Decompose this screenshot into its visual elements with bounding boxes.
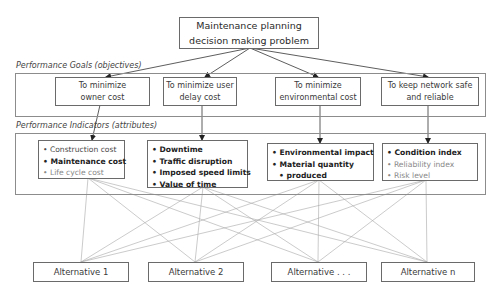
goal-network-safe-reliable: To keep network safe and reliable (381, 77, 479, 106)
decision-problem-line1: Maintenance planning (196, 18, 301, 33)
indicator-item: Environmental impact (272, 147, 369, 159)
alternative-ellipsis: Alternative . . . (271, 262, 367, 282)
goal-environmental-cost: To minimize environmental cost (275, 77, 361, 106)
indicator-item: Maintenance cost (43, 156, 120, 168)
alternative-1-label: Alternative 1 (54, 266, 109, 278)
indicator-item: Reliability index (387, 159, 473, 171)
indicators-environmental: Environmental impact Material quantity p… (267, 143, 374, 181)
goal-environmental-line2: environmental cost (279, 92, 356, 104)
indicators-owner-cost: Construction cost Maintenance cost Life … (38, 140, 125, 179)
indicator-item: Downtime (152, 144, 243, 156)
goal-network-line1: To keep network safe (388, 80, 473, 92)
goal-user-delay-line2: delay cost (180, 92, 221, 104)
goal-owner-cost: To minimize owner cost (55, 77, 150, 106)
goal-user-delay-cost: To minimize user delay cost (163, 77, 237, 106)
indicator-item: Traffic disruption (152, 156, 243, 168)
decision-problem-box: Maintenance planning decision making pro… (179, 17, 319, 49)
alternative-ellipsis-label: Alternative . . . (288, 266, 351, 278)
goal-owner-cost-line1: To minimize (79, 80, 126, 92)
goal-environmental-line1: To minimize (294, 80, 341, 92)
indicator-item: Risk level (387, 170, 473, 182)
indicators-network: Condition index Reliability index Risk l… (382, 143, 478, 181)
performance-goals-label: Performance Goals (objectives) (16, 61, 142, 70)
alternative-1: Alternative 1 (33, 262, 129, 282)
indicator-item: Value of time (152, 179, 243, 191)
goal-network-line2: and reliable (406, 92, 453, 104)
goal-owner-cost-line2: owner cost (81, 92, 125, 104)
indicator-item: Condition index (387, 147, 473, 159)
indicator-item: Material quantity (272, 159, 369, 171)
indicator-item-text: produced (287, 171, 327, 180)
decision-problem-line2: decision making problem (189, 33, 309, 48)
goal-user-delay-line1: To minimize user (166, 80, 233, 92)
alternative-n-label: Alternative n (401, 266, 456, 278)
indicator-item: Construction cost (43, 144, 120, 156)
performance-indicators-label: Performance Indicators (attributes) (16, 121, 157, 130)
indicator-item: Life cycle cost (43, 167, 120, 179)
alternative-2-label: Alternative 2 (169, 266, 224, 278)
indicator-item: Imposed speed limits (152, 167, 243, 179)
indicators-user-delay: Downtime Traffic disruption Imposed spee… (147, 140, 248, 188)
alternative-n: Alternative n (381, 262, 475, 282)
indicator-item-continuation: produced (272, 170, 369, 182)
alternative-2: Alternative 2 (148, 262, 244, 282)
